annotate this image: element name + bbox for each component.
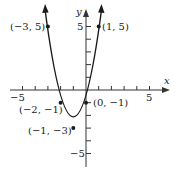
x-tick-label-max: 5 bbox=[146, 92, 152, 103]
label-neg2-neg1: (−2, −1) bbox=[19, 104, 63, 115]
point-1-5 bbox=[97, 25, 101, 29]
label-neg3-5: (−3, 5) bbox=[10, 21, 45, 32]
curve-arrow-right-icon bbox=[98, 4, 104, 13]
point-vertex bbox=[71, 126, 75, 130]
x-axis-label: x bbox=[164, 75, 170, 86]
point-0-neg1 bbox=[84, 101, 88, 105]
x-axis-arrow-icon bbox=[162, 87, 170, 93]
point-neg3-5 bbox=[46, 25, 50, 29]
label-0-neg1: (0, −1) bbox=[93, 97, 128, 108]
y-tick-label-max: 5 bbox=[77, 21, 83, 32]
y-axis-arrow-icon bbox=[83, 9, 89, 17]
label-1-5: (1, 5) bbox=[102, 21, 129, 32]
label-vertex: (−1, −3) bbox=[28, 125, 72, 136]
x-tick-label-min: −5 bbox=[10, 92, 25, 103]
curve-arrow-left-icon bbox=[42, 4, 48, 13]
y-tick-label-min: −5 bbox=[70, 148, 85, 159]
parabola-chart: x −5 5 y 5 −5 bbox=[0, 0, 175, 177]
y-axis-label: y bbox=[75, 6, 82, 17]
